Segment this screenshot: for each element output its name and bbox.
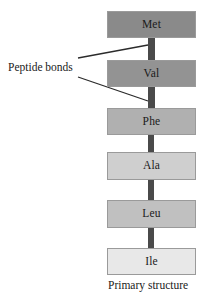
residue-label-ile: Ile — [145, 256, 158, 268]
residue-box-leu: Leu — [107, 200, 196, 228]
peptide-bond-val-phe — [148, 87, 155, 108]
peptide-bond-met-val — [148, 38, 155, 60]
residue-label-ala: Ala — [143, 160, 160, 172]
peptide-bond-phe-ala — [148, 135, 154, 152]
residue-box-ile: Ile — [107, 248, 196, 275]
peptide-bond-leu-ile — [148, 228, 154, 248]
leader-line-upper — [78, 45, 148, 58]
residue-label-met: Met — [142, 19, 161, 31]
residue-label-leu: Leu — [142, 208, 160, 220]
peptide-bond-ala-leu — [148, 180, 154, 200]
peptide-bonds-label: Peptide bonds — [8, 62, 73, 74]
residue-box-met: Met — [107, 11, 196, 38]
residue-label-val: Val — [144, 68, 160, 80]
residue-box-phe: Phe — [107, 108, 196, 135]
residue-box-ala: Ala — [107, 152, 196, 180]
residue-box-val: Val — [107, 60, 196, 87]
primary-structure-caption: Primary structure — [108, 280, 188, 292]
residue-label-phe: Phe — [143, 116, 161, 128]
primary-structure-diagram: Peptide bonds Met Val Phe Ala Leu Ile Pr… — [0, 0, 213, 303]
